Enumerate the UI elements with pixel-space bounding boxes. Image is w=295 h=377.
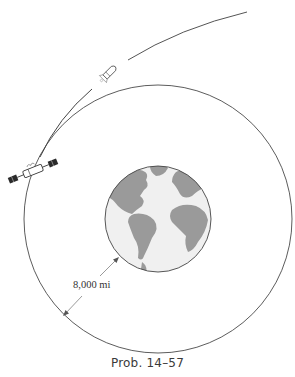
dimension-label: 8,000 mi (73, 279, 110, 290)
earth-globe (105, 164, 211, 276)
trajectory-arc-lower (40, 89, 92, 157)
orbit-diagram (0, 0, 295, 377)
satellite-icon (6, 154, 58, 184)
figure-caption: Prob. 14–57 (0, 356, 295, 370)
rocket-icon (97, 63, 119, 85)
trajectory-arc-upper (128, 12, 247, 60)
